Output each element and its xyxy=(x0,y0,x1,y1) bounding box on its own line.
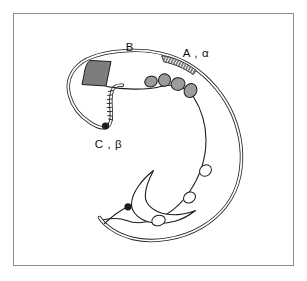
gray-blob xyxy=(170,76,186,91)
figure-panel: B A , α C , β xyxy=(0,0,307,281)
label-c-beta: C , β xyxy=(95,138,123,150)
label-a-alpha: A , α xyxy=(183,47,209,59)
white-oval xyxy=(181,190,197,206)
embryo-diagram: B A , α C , β xyxy=(0,0,307,281)
gray-blob xyxy=(143,74,158,88)
black-dot-tail xyxy=(124,203,131,210)
label-b: B xyxy=(126,41,134,53)
tail-inner-line xyxy=(105,207,129,224)
white-oval xyxy=(197,162,214,178)
gray-triangle-region xyxy=(82,61,111,87)
gray-blob-row xyxy=(143,72,199,99)
black-dot-head xyxy=(102,122,109,129)
